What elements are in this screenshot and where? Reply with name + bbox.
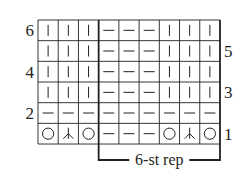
double-decrease-icon: [63, 128, 73, 139]
bracket-right: [189, 144, 220, 160]
chart-grid: [38, 20, 220, 144]
repeat-bracket: 6-st rep: [99, 144, 220, 169]
double-decrease-icon: [185, 128, 195, 139]
row-number: 3: [224, 83, 233, 102]
row-labels: 642531: [26, 21, 233, 143]
row-number: 4: [26, 63, 35, 82]
yarn-over-icon: [164, 128, 175, 139]
row-number: 5: [224, 42, 233, 61]
yarn-over-icon: [204, 128, 215, 139]
row-number: 1: [224, 125, 233, 144]
yarn-over-icon: [43, 128, 54, 139]
yarn-over-icon: [83, 128, 94, 139]
bracket-left: [99, 144, 130, 160]
knitting-chart: 642531 6-st rep: [0, 0, 247, 182]
row-number: 2: [26, 104, 35, 123]
repeat-label: 6-st rep: [135, 151, 183, 169]
row-number: 6: [26, 21, 35, 40]
